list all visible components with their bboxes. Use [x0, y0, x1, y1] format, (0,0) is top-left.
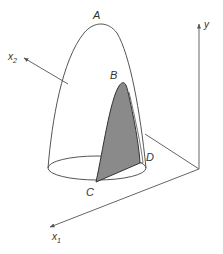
x2-axis-label: x2	[7, 51, 17, 64]
diagram: y x1 x2 A B C D	[0, 0, 223, 254]
x2-sub: 2	[12, 57, 17, 64]
label-d: D	[146, 151, 154, 163]
x1-axis-label: x1	[51, 231, 61, 244]
x1-sub: 1	[57, 237, 61, 244]
label-b: B	[110, 69, 117, 81]
y-axis-label: y	[203, 19, 210, 30]
label-a: A	[92, 9, 100, 21]
shaded-cross-section	[96, 83, 140, 182]
label-c: C	[86, 186, 94, 198]
x2-axis	[24, 58, 68, 84]
